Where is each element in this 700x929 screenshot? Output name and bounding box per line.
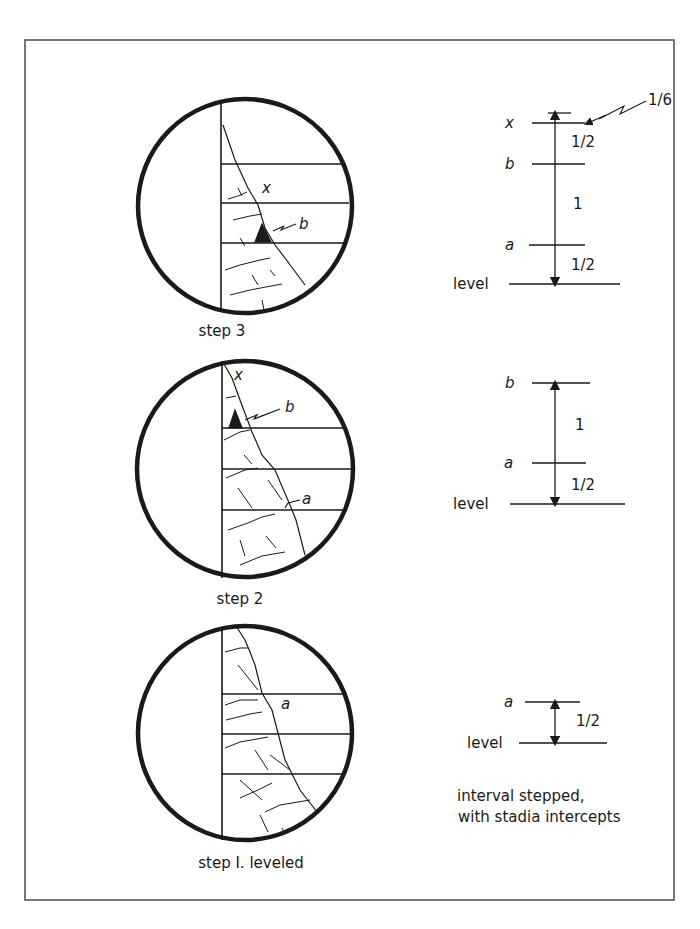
figure-frame (25, 40, 674, 900)
panel-step1: a step I. leveled a level 1/2 (138, 626, 607, 872)
mark-b: b (505, 374, 515, 392)
mark-level: level (467, 734, 503, 752)
scope-view-step1: a (138, 626, 353, 840)
scale-step2: b a level 1 1/2 (453, 374, 625, 513)
callout-one-sixth: 1/6 (648, 91, 672, 109)
mark-b: b (505, 155, 515, 173)
caption-step1: step I. leveled (198, 854, 304, 872)
scale-step3: x b a level 1/2 1 1/2 1/6 (453, 91, 672, 293)
scope-label-x: x (233, 366, 243, 384)
scope-label-x: x (261, 179, 271, 197)
scope-label-b: b (299, 215, 309, 233)
stadia-stepping-diagram: x b step 3 x b a level 1/2 1 1/2 1/6 (0, 0, 700, 929)
scope-label-b: b (285, 398, 295, 416)
interval-a-level: 1/2 (571, 256, 595, 274)
note-line-2: with stadia intercepts (458, 808, 621, 826)
mark-level: level (453, 275, 489, 293)
note-line-1: interval stepped, (457, 787, 584, 805)
scope-view-step3: x b (138, 99, 352, 313)
mark-a: a (505, 236, 514, 254)
mark-level: level (453, 495, 489, 513)
interval-x-b: 1/2 (571, 133, 595, 151)
caption-step3: step 3 (199, 322, 246, 340)
mark-a: a (504, 454, 513, 472)
mark-a: a (504, 693, 513, 711)
panel-step2: x b a step 2 b a level 1 1/2 (137, 361, 625, 608)
scope-label-a: a (302, 490, 311, 508)
interval-a-level: 1/2 (571, 476, 595, 494)
panel-step3: x b step 3 x b a level 1/2 1 1/2 1/6 (138, 91, 672, 340)
scope-label-a: a (281, 695, 290, 713)
interval-a-level: 1/2 (576, 712, 600, 730)
interval-b-a: 1 (575, 416, 585, 434)
mark-x: x (504, 114, 514, 132)
caption-step2: step 2 (217, 590, 264, 608)
interval-b-a: 1 (573, 195, 583, 213)
scope-view-step2: x b a (137, 361, 353, 578)
scale-step1: a level 1/2 (467, 693, 607, 752)
